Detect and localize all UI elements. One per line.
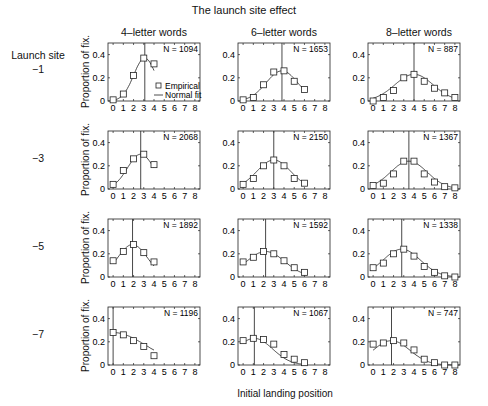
y-tick-label: 0 — [360, 360, 365, 370]
x-tick-label: 4 — [151, 103, 156, 113]
x-tick-label: 3 — [141, 367, 146, 377]
x-tick-label: 3 — [141, 279, 146, 289]
empirical-marker — [131, 338, 137, 344]
x-tick-label: 5 — [292, 279, 297, 289]
x-tick-label: 7 — [312, 367, 317, 377]
x-tick-label: 7 — [182, 279, 187, 289]
x-tick-label: 5 — [162, 279, 167, 289]
empirical-marker — [151, 162, 157, 168]
empirical-marker — [141, 343, 147, 349]
x-tick-label: 1 — [121, 191, 126, 201]
empirical-marker — [442, 273, 448, 279]
x-tick-label: 1 — [121, 279, 126, 289]
x-tick-label: 1 — [381, 191, 386, 201]
sample-size-label: N = 1338 — [423, 220, 458, 230]
empirical-marker — [291, 78, 297, 84]
empirical-marker — [421, 171, 427, 177]
x-tick-label: 7 — [312, 191, 317, 201]
empirical-marker — [421, 78, 427, 84]
panel-2-1: 01234567800.20.4N = 2068 — [92, 131, 200, 201]
empirical-marker — [370, 183, 376, 189]
x-tick-label: 6 — [172, 279, 177, 289]
empirical-marker — [120, 332, 126, 338]
y-tick-label: 0.4 — [92, 50, 105, 60]
x-tick-label: 8 — [452, 103, 457, 113]
x-tick-label: 6 — [302, 367, 307, 377]
empirical-marker — [131, 72, 137, 78]
y-tick-label: 0.2 — [352, 249, 365, 259]
y-tick-label: 0.2 — [92, 337, 105, 347]
sample-size-label: N = 887 — [428, 44, 458, 54]
panel-2-2: 01234567800.20.4N = 2150 — [222, 131, 330, 201]
legend-fit-label: Normal fit — [165, 90, 202, 100]
x-tick-label: 0 — [371, 279, 376, 289]
empirical-marker — [261, 163, 267, 169]
sample-size-label: N = 2150 — [293, 132, 328, 142]
empirical-marker — [411, 71, 417, 77]
x-tick-label: 4 — [411, 279, 416, 289]
empirical-marker — [250, 176, 256, 182]
sample-size-label: N = 1653 — [293, 44, 328, 54]
x-tick-label: 1 — [251, 367, 256, 377]
y-tick-label: 0.4 — [92, 226, 105, 236]
y-tick-label: 0 — [360, 272, 365, 282]
sample-size-label: N = 2068 — [163, 132, 198, 142]
y-tick-label: 0.4 — [222, 314, 235, 324]
empirical-marker — [431, 85, 437, 91]
panel-2-3: 01234567800.20.4N = 1367 — [352, 131, 460, 201]
sample-size-label: N = 1892 — [163, 220, 198, 230]
empirical-marker — [401, 158, 407, 164]
y-tick-label: 0.2 — [222, 161, 235, 171]
empirical-marker — [452, 185, 458, 191]
empirical-marker — [141, 55, 147, 61]
x-tick-label: 1 — [121, 367, 126, 377]
x-tick-label: 8 — [322, 191, 327, 201]
x-tick-label: 8 — [322, 367, 327, 377]
empirical-marker — [442, 184, 448, 190]
x-tick-label: 1 — [121, 103, 126, 113]
panel-3-1: 01234567800.20.4N = 1892 — [92, 219, 200, 289]
empirical-marker — [421, 264, 427, 270]
empirical-marker — [120, 91, 126, 97]
x-tick-label: 8 — [452, 279, 457, 289]
x-tick-label: 3 — [141, 103, 146, 113]
x-tick-label: 5 — [162, 191, 167, 201]
empirical-marker — [261, 336, 267, 342]
x-tick-label: 5 — [162, 367, 167, 377]
legend: EmpiricalNormal fit — [154, 81, 202, 100]
x-tick-label: 1 — [381, 103, 386, 113]
x-tick-label: 2 — [131, 191, 136, 201]
x-tick-label: 7 — [442, 367, 447, 377]
x-tick-label: 7 — [442, 103, 447, 113]
x-tick-label: 0 — [111, 103, 116, 113]
x-tick-label: 7 — [442, 279, 447, 289]
x-tick-label: 0 — [241, 279, 246, 289]
empirical-marker — [240, 259, 246, 265]
empirical-marker — [411, 347, 417, 353]
empirical-marker — [120, 248, 126, 254]
y-tick-label: 0 — [230, 360, 235, 370]
x-tick-label: 0 — [111, 367, 116, 377]
sample-size-label: N = 1196 — [164, 308, 198, 318]
x-tick-label: 8 — [192, 103, 197, 113]
empirical-marker — [240, 97, 246, 103]
x-tick-label: 8 — [192, 191, 197, 201]
empirical-marker — [301, 180, 307, 186]
empirical-marker — [141, 151, 147, 157]
empirical-marker — [131, 156, 137, 162]
x-tick-label: 1 — [381, 279, 386, 289]
x-tick-label: 3 — [401, 103, 406, 113]
empirical-marker — [401, 75, 407, 81]
x-tick-label: 3 — [271, 191, 276, 201]
empirical-marker — [391, 338, 397, 344]
x-tick-label: 0 — [241, 103, 246, 113]
empirical-marker — [261, 248, 267, 254]
empirical-marker — [370, 341, 376, 347]
x-tick-label: 2 — [391, 103, 396, 113]
empirical-marker — [421, 356, 427, 362]
x-tick-label: 5 — [162, 103, 167, 113]
x-tick-label: 8 — [192, 279, 197, 289]
y-tick-label: 0.4 — [352, 138, 365, 148]
empirical-marker — [442, 90, 448, 96]
y-tick-label: 0.2 — [92, 161, 105, 171]
